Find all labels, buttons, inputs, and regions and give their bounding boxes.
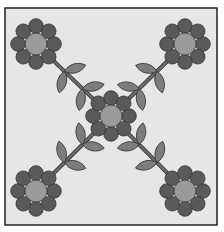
flower-center-disc <box>174 33 196 55</box>
flower-center-disc <box>25 180 47 202</box>
quilt-illustration <box>0 0 224 232</box>
flower-bottom-left <box>11 166 62 217</box>
flower-center-disc <box>174 180 196 202</box>
flower-center-disc <box>25 33 47 55</box>
flower-center-disc <box>100 105 122 127</box>
flower-bottom-right <box>160 166 211 217</box>
flower-center <box>86 91 137 142</box>
flower-top-right <box>160 19 211 70</box>
flower-top-left <box>11 19 62 70</box>
